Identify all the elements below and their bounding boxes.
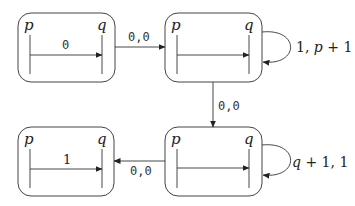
transition-1-to-2: 0,0 — [115, 30, 165, 47]
self-loop-2: 1, p + 1 — [262, 32, 352, 63]
state-box-4: p q 1 — [18, 127, 114, 196]
loop-label-2: 1, p + 1 — [296, 39, 352, 55]
transition-label: 0,0 — [130, 164, 152, 178]
state-1-q-label: q — [97, 16, 107, 34]
state-4-inner-label: 1 — [63, 152, 71, 167]
state-4-p-label: p — [24, 130, 34, 148]
transition-label: 0,0 — [218, 99, 240, 113]
state-3-q-label: q — [244, 130, 254, 148]
state-4-q-label: q — [97, 130, 107, 148]
state-2-q-label: q — [244, 16, 254, 34]
loop-label-3: q + 1, 1 — [292, 154, 348, 170]
state-2-p-label: p — [171, 16, 181, 34]
state-box-3: p q — [165, 127, 262, 196]
state-diagram: p q 0 p q p q p q 1 0,0 — [0, 0, 355, 206]
state-1-inner-label: 0 — [62, 38, 69, 52]
state-box-2: p q — [165, 13, 262, 82]
state-1-p-label: p — [24, 16, 34, 34]
state-3-p-label: p — [171, 130, 181, 148]
state-box-1: p q 0 — [18, 13, 115, 82]
transition-label: 0,0 — [128, 30, 150, 44]
self-loop-3: q + 1, 1 — [262, 145, 348, 176]
transition-3-to-4: 0,0 — [114, 161, 165, 178]
transition-2-to-3: 0,0 — [213, 82, 240, 127]
